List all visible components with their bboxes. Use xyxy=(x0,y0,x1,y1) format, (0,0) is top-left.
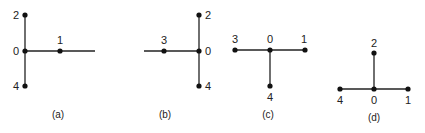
node-2 xyxy=(371,50,376,55)
node-3 xyxy=(161,48,166,53)
node-4 xyxy=(267,83,272,88)
node-label: 1 xyxy=(405,94,411,106)
node-label: 3 xyxy=(232,33,238,45)
node-label: 3 xyxy=(161,34,167,46)
node-label: 0 xyxy=(267,33,273,45)
panel-caption: (d) xyxy=(368,112,380,123)
node-3 xyxy=(232,47,237,52)
node-label: 0 xyxy=(13,45,19,57)
node-2 xyxy=(196,12,201,17)
panel-c: 3014(c) xyxy=(232,33,308,120)
node-2 xyxy=(22,12,27,17)
node-label: 4 xyxy=(13,80,19,92)
node-label: 0 xyxy=(205,45,211,57)
node-0 xyxy=(371,86,376,91)
node-1 xyxy=(302,47,307,52)
figure: 2014(a)2304(b)3014(c)2401(d) xyxy=(0,0,425,133)
node-4 xyxy=(196,83,201,88)
panel-caption: (a) xyxy=(52,109,64,120)
node-label: 2 xyxy=(371,37,377,49)
node-label: 1 xyxy=(301,33,307,45)
node-label: 4 xyxy=(205,80,211,92)
panel-caption: (b) xyxy=(159,109,171,120)
panel-caption: (c) xyxy=(262,109,274,120)
node-0 xyxy=(196,48,201,53)
panel-b: 2304(b) xyxy=(144,9,211,120)
node-label: 4 xyxy=(267,91,273,103)
node-0 xyxy=(22,48,27,53)
node-label: 2 xyxy=(205,9,211,21)
node-1 xyxy=(405,86,410,91)
tree-diagrams: 2014(a)2304(b)3014(c)2401(d) xyxy=(0,0,425,133)
node-label: 4 xyxy=(337,94,343,106)
node-label: 0 xyxy=(371,94,377,106)
node-1 xyxy=(57,48,62,53)
node-4 xyxy=(337,86,342,91)
panel-d: 2401(d) xyxy=(337,37,411,123)
node-4 xyxy=(22,83,27,88)
node-label: 1 xyxy=(57,34,63,46)
node-label: 2 xyxy=(13,9,19,21)
node-0 xyxy=(267,47,272,52)
panel-a: 2014(a) xyxy=(13,9,95,120)
